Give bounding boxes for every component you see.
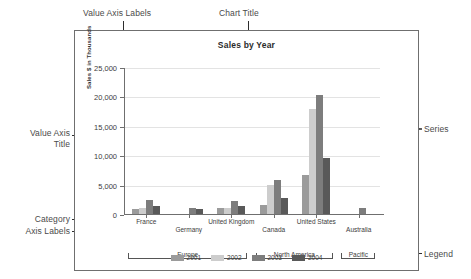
annotation-value-axis-labels: Value Axis Labels <box>83 8 151 18</box>
bar[interactable] <box>238 206 245 214</box>
legend-label: 2001 <box>187 254 201 261</box>
bar[interactable] <box>146 200 153 214</box>
legend-item[interactable]: 2004 <box>292 254 322 261</box>
category-axis-tick <box>359 214 360 218</box>
bar[interactable] <box>139 208 146 214</box>
annotation-category-axis-labels-line2: Axis Labels <box>8 226 70 236</box>
value-axis-tick <box>120 215 124 216</box>
annotation-chart-title: Chart Title <box>219 8 259 18</box>
bar-group: United Kingdom <box>210 68 253 214</box>
legend-label: 2004 <box>308 254 322 261</box>
legend-swatch <box>211 255 224 261</box>
bar[interactable] <box>217 208 224 214</box>
bar[interactable] <box>302 175 309 214</box>
bar-group: Germany <box>168 68 211 214</box>
category-axis-label: Germany <box>175 226 202 233</box>
bar-group: Australia <box>338 68 381 214</box>
bar[interactable] <box>359 208 366 214</box>
value-axis-tick <box>120 186 124 187</box>
chart-frame: Sales by Year Sales $ in Thousands 25,00… <box>74 30 419 271</box>
bar[interactable] <box>267 185 274 214</box>
annotation-series: Series <box>424 124 449 134</box>
legend-item[interactable]: 2002 <box>211 254 241 261</box>
bar-groups: FranceGermanyUnited KingdomCanadaUnited … <box>125 68 380 214</box>
value-axis-tick-label: 10,000 <box>94 152 117 161</box>
bar-group: United States <box>295 68 338 214</box>
annotation-value-axis-title: Value Axis <box>8 128 70 138</box>
annotation-category-axis-labels: Category <box>8 214 70 224</box>
bar[interactable] <box>316 95 323 214</box>
legend-swatch <box>171 255 184 261</box>
category-axis-label: France <box>136 218 156 225</box>
category-axis-line <box>124 214 384 215</box>
annotation-legend: Legend <box>424 249 453 259</box>
category-axis-tick <box>274 214 275 218</box>
category-axis-label: Canada <box>262 226 285 233</box>
bar[interactable] <box>281 198 288 214</box>
value-axis-tick <box>120 68 124 69</box>
value-axis-tick-label: 25,000 <box>94 64 117 73</box>
bar[interactable] <box>224 208 231 214</box>
legend-item[interactable]: 2003 <box>252 254 282 261</box>
category-axis-tick <box>189 214 190 218</box>
screenshot-root: Value Axis Labels Chart Title Value Axis… <box>0 0 471 279</box>
bar[interactable] <box>323 158 330 214</box>
value-axis-tick-label: 15,000 <box>94 122 117 131</box>
value-axis-tick <box>120 156 124 157</box>
bar[interactable] <box>132 209 139 214</box>
legend-item[interactable]: 2001 <box>171 254 201 261</box>
bar-group: France <box>125 68 168 214</box>
bar[interactable] <box>189 208 196 214</box>
chart-legend[interactable]: 2001200220032004 <box>75 254 418 261</box>
legend-label: 2002 <box>227 254 241 261</box>
annotation-value-axis-title-line2: Title <box>8 139 70 149</box>
bar[interactable] <box>231 201 238 214</box>
bar[interactable] <box>260 205 267 214</box>
bar[interactable] <box>274 180 281 214</box>
bar-group: Canada <box>253 68 296 214</box>
bar[interactable] <box>309 109 316 214</box>
category-axis-label: United Kingdom <box>208 218 254 225</box>
value-axis-tick <box>120 97 124 98</box>
legend-label: 2003 <box>268 254 282 261</box>
category-axis-label: United States <box>297 218 336 225</box>
value-axis-tick-label: 5,000 <box>98 181 117 190</box>
bar[interactable] <box>196 209 203 214</box>
plot-area: 25,00020,00015,00010,0005,0000 FranceGer… <box>124 68 380 215</box>
value-axis-title: Sales $ in Thousands <box>86 26 92 89</box>
value-axis-tick <box>120 127 124 128</box>
bar[interactable] <box>153 206 160 214</box>
value-axis-tick-label: 20,000 <box>94 93 117 102</box>
legend-swatch <box>252 255 265 261</box>
chart-title: Sales by Year <box>75 40 418 50</box>
legend-swatch <box>292 255 305 261</box>
value-axis-tick-label: 0 <box>113 211 117 220</box>
category-axis-label: Australia <box>346 226 371 233</box>
